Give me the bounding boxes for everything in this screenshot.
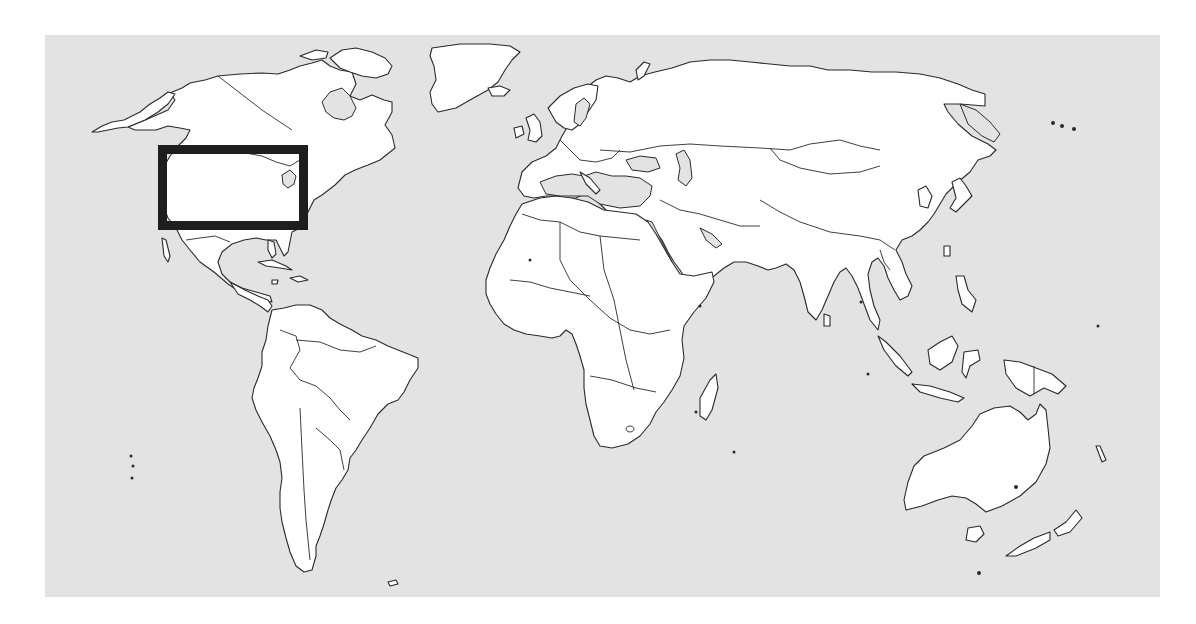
taiwan: [944, 246, 950, 256]
islet: [130, 455, 133, 458]
islet: [1051, 121, 1055, 125]
islet: [1060, 124, 1064, 128]
islet: [1014, 485, 1018, 489]
islet: [867, 373, 870, 376]
islet: [699, 305, 702, 308]
islet: [860, 301, 863, 304]
sri-lanka: [824, 314, 830, 326]
islet: [1097, 325, 1100, 328]
jamaica: [272, 280, 278, 284]
world-map-figure: Study region: continental United States: [0, 0, 1196, 624]
islet: [977, 571, 981, 575]
world-map-svg: [0, 0, 1196, 624]
islet: [1072, 127, 1076, 131]
islet: [733, 451, 736, 454]
islet: [132, 465, 135, 468]
islet: [695, 411, 698, 414]
islet: [131, 477, 134, 480]
islet: [529, 259, 532, 262]
